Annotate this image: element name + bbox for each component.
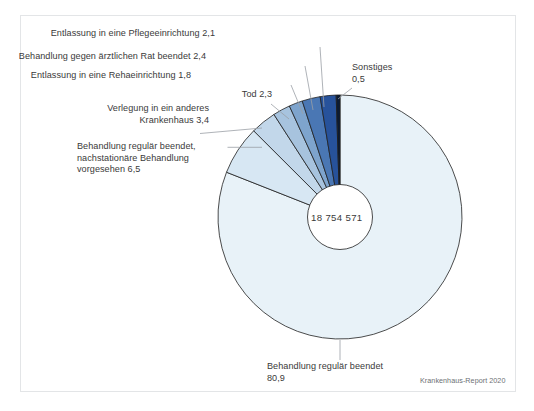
label-nachstationaer: Behandlung regulär beendet, nachstationä…: [77, 141, 196, 176]
label-pflege-text: Entlassung in eine Pflegeeinrichtung 2,1: [51, 28, 215, 38]
label-tod-text: Tod 2,3: [242, 89, 272, 99]
label-verlegung-line1: Verlegung in ein anderes: [0, 103, 209, 115]
pie-chart: Entlassung in eine Pflegeeinrichtung 2,1…: [0, 0, 534, 411]
label-regulaer: Behandlung regulär beendet 80,9: [267, 361, 383, 384]
label-arzt-text: Behandlung gegen ärztlichen Rat beendet …: [19, 51, 206, 61]
label-pflege: Entlassung in eine Pflegeeinrichtung 2,1: [51, 28, 215, 40]
label-verlegung: Verlegung in ein anderes Krankenhaus 3,4: [0, 103, 209, 126]
label-sonstiges-line1: Sonstiges: [352, 62, 392, 74]
label-tod: Tod 2,3: [242, 89, 272, 101]
label-sonstiges: Sonstiges 0,5: [352, 62, 392, 85]
label-sonstiges-line2: 0,5: [352, 74, 392, 86]
label-arzt: Behandlung gegen ärztlichen Rat beendet …: [19, 51, 206, 63]
label-regulaer-line2: 80,9: [267, 373, 383, 385]
label-reha-text: Entlassung in eine Rehaeinrichtung 1,8: [31, 70, 191, 80]
label-nachstationaer-line1: Behandlung regulär beendet,: [77, 141, 196, 153]
label-nachstationaer-line2: nachstationäre Behandlung: [77, 153, 196, 165]
label-regulaer-line1: Behandlung regulär beendet: [267, 361, 383, 373]
label-verlegung-line2: Krankenhaus 3,4: [0, 115, 209, 127]
label-nachstationaer-line3: vorgesehen 6,5: [77, 164, 196, 176]
source-note: Krankenhaus-Report 2020: [420, 376, 505, 385]
center-total-value: 18 754 571: [311, 212, 363, 223]
label-reha: Entlassung in eine Rehaeinrichtung 1,8: [31, 70, 191, 82]
